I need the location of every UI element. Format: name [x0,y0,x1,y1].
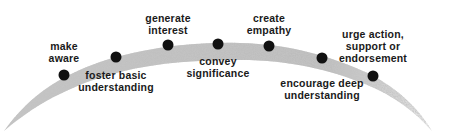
stage-label: foster basicunderstanding [78,69,154,93]
stage-label-line: foster basic [78,69,154,81]
stage-dot [368,71,379,82]
stage-label-line: make [49,40,80,52]
stage-dot [111,52,122,63]
stage-label: encourage deepunderstanding [280,77,363,101]
stage-label-line: generate [145,12,190,24]
stage-dot [163,40,174,51]
stage-dot [59,70,70,81]
stage-label-line: urge action, [339,28,407,40]
stage-label-line: aware [49,52,80,64]
stage-label-line: understanding [280,89,363,101]
stage-label-line: encourage deep [280,77,363,89]
stage-label-line: convey [186,55,249,67]
stage-label-line: endorsement [339,52,407,64]
stage-dot [213,39,224,50]
stage-dot [264,41,275,52]
stage-label: generateinterest [145,12,190,36]
stage-label-line: support or [339,40,407,52]
stage-label: createempathy [247,12,292,36]
stage-label-line: understanding [78,81,154,93]
stage-label-line: interest [145,24,190,36]
stage-label: makeaware [49,40,80,64]
stage-dot [317,53,328,64]
stage-label: urge action,support orendorsement [339,28,407,64]
engagement-arc-diagram: makeawarefoster basicunderstandinggenera… [0,0,452,133]
stage-label-line: empathy [247,24,292,36]
stage-label-line: significance [186,67,249,79]
stage-label: conveysignificance [186,55,249,79]
stage-label-line: create [247,12,292,24]
